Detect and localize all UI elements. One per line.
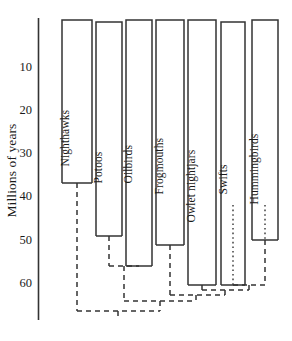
bar-label-hummingbirds: Hummingbirds <box>249 134 261 205</box>
bar-oilbirds[interactable] <box>126 20 152 266</box>
y-tick-label-50: 50 <box>6 234 32 247</box>
bar-label-oilbirds: Oilbirds <box>123 145 135 184</box>
bar-swifts[interactable] <box>221 22 245 285</box>
cladogram-figure: Millions of years 10 20 30 40 50 60 Nigh… <box>0 0 292 341</box>
y-tick-label-40: 40 <box>6 190 32 203</box>
bar-hummingbirds[interactable] <box>252 20 278 240</box>
bar-potoos[interactable] <box>96 22 122 236</box>
dashed-branches-group <box>77 183 265 319</box>
bar-frogmouths[interactable] <box>156 20 184 245</box>
y-tick-label-10: 10 <box>6 61 32 74</box>
bar-label-owlet-nightjars: Owlet nightjars <box>186 150 198 223</box>
bar-label-nighthawks: Nighthawks <box>60 110 72 167</box>
bar-label-potoos: Potoos <box>93 152 105 184</box>
y-tick-label-30: 30 <box>6 147 32 160</box>
bar-label-frogmouths: Frogmouths <box>154 138 166 195</box>
bar-label-swifts: Swifts <box>218 165 230 195</box>
y-tick-label-20: 20 <box>6 104 32 117</box>
y-tick-label-60: 60 <box>6 277 32 290</box>
dotted-internal-stems <box>233 205 265 285</box>
